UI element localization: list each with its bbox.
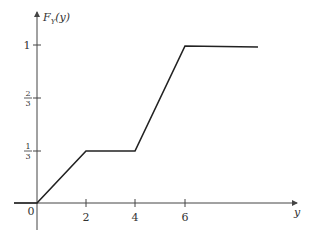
x-tick-label-4: 4 [132,211,139,224]
svg-text:3: 3 [25,99,30,108]
y-tick-label-1: 1 [24,39,31,52]
y-tick-label-2-3: 2 3 [24,89,32,108]
svg-text:FY(y): FY(y) [42,11,70,26]
x-tick-label-2: 2 [83,211,90,224]
origin-label: 0 [28,205,35,218]
svg-text:1: 1 [25,142,30,151]
y-tick-label-1-3: 1 3 [24,142,32,161]
x-tick-label-6: 6 [182,211,189,224]
svg-text:3: 3 [25,152,30,161]
svg-text:2: 2 [25,89,30,98]
cdf-chart: 0 2 4 6 y 1 2 3 1 3 FY(y) [0,0,315,233]
x-axis-label: y [293,206,301,219]
cdf-line [14,46,258,203]
y-axis-label: FY(y) [42,11,70,26]
